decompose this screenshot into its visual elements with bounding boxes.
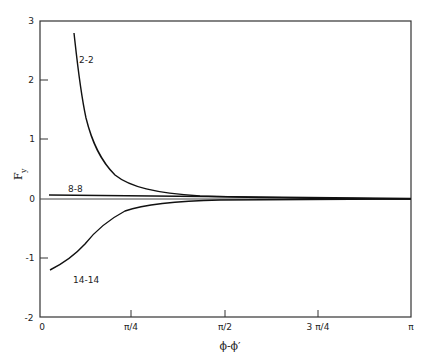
plot-frame bbox=[40, 21, 411, 317]
svg-text:y: y bbox=[19, 168, 28, 174]
curve-14-14 bbox=[50, 199, 411, 270]
y-tick-label-0: 0 bbox=[29, 194, 35, 204]
chart: 3 2 1 0 -1 -2 0 π/4 π/2 3 π/4 π ϕ-ϕ′ F y… bbox=[0, 0, 427, 359]
curve-2-2 bbox=[74, 33, 411, 199]
y-tick-label-2: 2 bbox=[28, 75, 34, 85]
x-tick-label-pi-4: π/4 bbox=[124, 322, 138, 332]
y-tick-label-minus-2: -2 bbox=[25, 313, 34, 323]
y-tick-label-3: 3 bbox=[28, 16, 34, 26]
x-tick-label-pi-2: π/2 bbox=[218, 322, 232, 332]
x-tick-label-0: 0 bbox=[39, 322, 45, 332]
curve-8-8 bbox=[49, 195, 411, 199]
y-ticks bbox=[40, 80, 48, 258]
x-tick-label-pi: π bbox=[408, 322, 414, 332]
x-axis-title: ϕ-ϕ′ bbox=[219, 340, 241, 353]
x-ticks bbox=[131, 310, 318, 317]
y-tick-label-1: 1 bbox=[29, 134, 35, 144]
label-8-8: 8-8 bbox=[68, 184, 83, 194]
x-tick-label-3pi-4: 3 π/4 bbox=[307, 322, 330, 332]
y-axis-title: F y bbox=[12, 168, 28, 180]
y-tick-label-minus-1: -1 bbox=[26, 253, 35, 263]
label-14-14: 14-14 bbox=[73, 275, 99, 285]
label-2-2: 2-2 bbox=[79, 55, 94, 65]
